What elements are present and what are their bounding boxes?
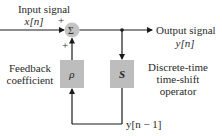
feedback-plus-sign: + [62,39,68,51]
input-label: Input signal [4,3,84,15]
feedback-coefficient-block: ρ [60,60,84,88]
shift-label-line1: Discrete-time [136,61,220,73]
output-label: Output signal [156,24,216,36]
feedback-label-line2: coefficient [2,74,58,86]
input-plus-sign: + [58,14,64,26]
sigma-symbol: Σ [68,25,74,37]
input-symbol: x[n] [14,15,54,27]
feedback-label-line1: Feedback [4,62,56,74]
output-symbol: y[n] [165,37,205,49]
time-shift-block: S [110,60,134,88]
shift-label-line3: operator [136,85,220,97]
delayed-signal-label: y[n − 1] [126,118,162,130]
shift-label-line2: time-shift [136,73,220,85]
